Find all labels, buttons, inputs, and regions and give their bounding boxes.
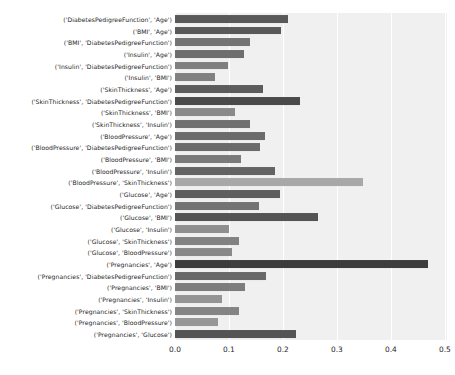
bar: [175, 248, 232, 256]
bar: [175, 50, 244, 58]
bar: [175, 260, 428, 268]
y-axis-tick-label: ('Glucose', 'SkinThickness'): [88, 237, 172, 244]
bar-row: ('Glucose', 'SkinThickness'): [0, 235, 455, 247]
bar-row: ('Glucose', 'BMI'): [0, 212, 455, 224]
y-axis-tick-label: ('Pregnancies', 'Glucose'): [94, 331, 172, 338]
bar: [175, 38, 250, 46]
bar-row: ('Glucose', 'Insulin'): [0, 223, 455, 235]
bar: [175, 15, 288, 23]
bar: [175, 62, 228, 70]
bar: [175, 167, 275, 175]
bar-row: ('Insulin', 'Age'): [0, 48, 455, 60]
bar-row: ('Insulin', 'DiabetesPedigreeFunction'): [0, 60, 455, 72]
bar-row: ('BMI', 'Age'): [0, 25, 455, 37]
bar: [175, 213, 318, 221]
bar-row: ('SkinThickness', 'BMI'): [0, 106, 455, 118]
bar: [175, 97, 300, 105]
y-axis-tick-label: ('SkinThickness', 'Insulin'): [92, 120, 172, 127]
y-axis-tick-label: ('BMI', 'DiabetesPedigreeFunction'): [64, 39, 172, 46]
bar: [175, 178, 363, 186]
bar-row: ('BloodPressure', 'SkinThickness'): [0, 177, 455, 189]
bar: [175, 155, 241, 163]
bar-row: ('Pregnancies', 'Insulin'): [0, 293, 455, 305]
bar: [175, 319, 218, 327]
bar: [175, 202, 259, 210]
x-axis-tick-label: 0.3: [331, 345, 343, 354]
bar-row: ('BMI', 'DiabetesPedigreeFunction'): [0, 36, 455, 48]
y-axis-tick-label: ('Insulin', 'BMI'): [124, 74, 172, 81]
y-axis-tick-label: ('Pregnancies', 'SkinThickness'): [75, 307, 172, 314]
y-axis-tick-label: ('BloodPressure', 'BMI'): [101, 155, 172, 162]
y-axis-tick-label: ('Pregnancies', 'Age'): [107, 261, 172, 268]
bar-row: ('Pregnancies', 'BloodPressure'): [0, 317, 455, 329]
bar: [175, 73, 215, 81]
bar-row: ('Pregnancies', 'BMI'): [0, 282, 455, 294]
y-axis-tick-label: ('Glucose', 'Age'): [120, 191, 173, 198]
y-axis-tick-label: ('BloodPressure', 'Age'): [100, 132, 172, 139]
bar: [175, 225, 229, 233]
y-axis-tick-label: ('BloodPressure', 'Insulin'): [92, 167, 172, 174]
bar-row: ('BloodPressure', 'DiabetesPedigreeFunct…: [0, 141, 455, 153]
y-axis-tick-label: ('Pregnancies', 'BMI'): [107, 284, 172, 291]
bar-row: ('Glucose', 'DiabetesPedigreeFunction'): [0, 200, 455, 212]
bar-row: ('SkinThickness', 'DiabetesPedigreeFunct…: [0, 95, 455, 107]
x-axis-tick-label: 0.1: [223, 345, 235, 354]
y-axis-tick-label: ('SkinThickness', 'BMI'): [101, 109, 172, 116]
y-axis-tick-label: ('BloodPressure', 'DiabetesPedigreeFunct…: [31, 144, 172, 151]
x-axis-tick-label: 0.2: [277, 345, 289, 354]
y-axis-tick-label: ('Glucose', 'BMI'): [120, 214, 172, 221]
bar: [175, 330, 296, 338]
bar-row: ('Pregnancies', 'DiabetesPedigreeFunctio…: [0, 270, 455, 282]
bar: [175, 85, 263, 93]
bar: [175, 108, 235, 116]
y-axis-tick-label: ('Insulin', 'Age'): [124, 50, 172, 57]
bar-row: ('Pregnancies', 'Age'): [0, 258, 455, 270]
bar-row: ('Glucose', 'Age'): [0, 188, 455, 200]
bar-rows-container: ('DiabetesPedigreeFunction', 'Age')('BMI…: [0, 0, 455, 375]
bar-row: ('Pregnancies', 'Glucose'): [0, 328, 455, 340]
y-axis-tick-label: ('Pregnancies', 'DiabetesPedigreeFunctio…: [38, 272, 172, 279]
y-axis-tick-label: ('BMI', 'Age'): [133, 27, 172, 34]
bar-row: ('DiabetesPedigreeFunction', 'Age'): [0, 13, 455, 25]
y-axis-tick-label: ('Pregnancies', 'BloodPressure'): [75, 319, 172, 326]
x-axis-ticks: 0.00.10.20.30.40.5: [0, 340, 455, 360]
bar-row: ('SkinThickness', 'Insulin'): [0, 118, 455, 130]
bar: [175, 272, 266, 280]
y-axis-tick-label: ('Glucose', 'BloodPressure'): [87, 249, 172, 256]
bar-row: ('BloodPressure', 'Insulin'): [0, 165, 455, 177]
x-axis-tick-label: 0.0: [169, 345, 181, 354]
bar: [175, 295, 222, 303]
bar: [175, 143, 260, 151]
x-axis-tick-label: 0.5: [439, 345, 451, 354]
y-axis-tick-label: ('Glucose', 'Insulin'): [111, 226, 172, 233]
y-axis-tick-label: ('SkinThickness', 'Age'): [100, 85, 172, 92]
y-axis-tick-label: ('SkinThickness', 'DiabetesPedigreeFunct…: [31, 97, 172, 104]
bar-row: ('Insulin', 'BMI'): [0, 71, 455, 83]
y-axis-tick-label: ('Glucose', 'DiabetesPedigreeFunction'): [51, 202, 172, 209]
bar-chart-figure: ('DiabetesPedigreeFunction', 'Age')('BMI…: [0, 0, 455, 375]
y-axis-tick-label: ('BloodPressure', 'SkinThickness'): [68, 179, 172, 186]
bar-row: ('SkinThickness', 'Age'): [0, 83, 455, 95]
bar: [175, 283, 245, 291]
bar-row: ('Pregnancies', 'SkinThickness'): [0, 305, 455, 317]
y-axis-tick-label: ('Pregnancies', 'Insulin'): [98, 296, 172, 303]
bar: [175, 190, 280, 198]
bar: [175, 132, 265, 140]
bar-row: ('BloodPressure', 'BMI'): [0, 153, 455, 165]
bar: [175, 307, 239, 315]
y-axis-tick-label: ('Insulin', 'DiabetesPedigreeFunction'): [55, 62, 172, 69]
bar-row: ('Glucose', 'BloodPressure'): [0, 247, 455, 259]
bar: [175, 237, 239, 245]
x-axis-tick-label: 0.4: [385, 345, 397, 354]
bar-row: ('BloodPressure', 'Age'): [0, 130, 455, 142]
bar: [175, 27, 281, 35]
bar: [175, 120, 250, 128]
y-axis-tick-label: ('DiabetesPedigreeFunction', 'Age'): [63, 15, 172, 22]
